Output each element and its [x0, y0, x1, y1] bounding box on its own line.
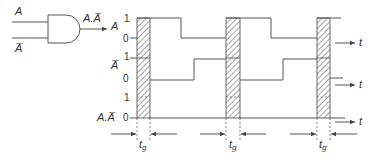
delay-region-2: [226, 18, 240, 118]
delay-region-3: [317, 18, 330, 118]
signal-a-bar-high: 1: [124, 51, 130, 62]
signal-output-low: 0: [123, 112, 129, 123]
input-a-label: A: [14, 5, 22, 17]
glitch-timing-diagram: A A̅ A.A̅ A 1 0 t A̅ 1 0 t A.A̅ 1 0: [0, 0, 376, 158]
signal-a-bar-low: 0: [123, 73, 129, 84]
gate-delay-markers: tg tg tg: [111, 118, 357, 152]
time-label: t: [359, 36, 363, 48]
signal-output-label: A.A̅: [96, 111, 116, 123]
delay-regions: [137, 18, 330, 118]
signal-a-label: A: [110, 20, 118, 32]
time-label: t: [359, 78, 363, 90]
and-gate-icon: [48, 15, 80, 43]
gate-delay-label-1: tg: [139, 138, 147, 152]
signal-a-bar-label: A̅: [110, 59, 120, 71]
gate-delay-label-2: tg: [229, 138, 237, 152]
and-gate: A A̅ A.A̅: [12, 5, 107, 54]
signal-output-high: 1: [124, 92, 130, 103]
time-label: t: [359, 115, 363, 127]
signal-a-high: 1: [124, 13, 130, 24]
output-label: A.A̅: [82, 12, 102, 24]
delay-region-1: [137, 18, 150, 118]
signal-a-low: 0: [123, 33, 129, 44]
input-a-bar-label: A̅: [14, 42, 24, 54]
gate-delay-label-3: tg: [319, 138, 327, 152]
